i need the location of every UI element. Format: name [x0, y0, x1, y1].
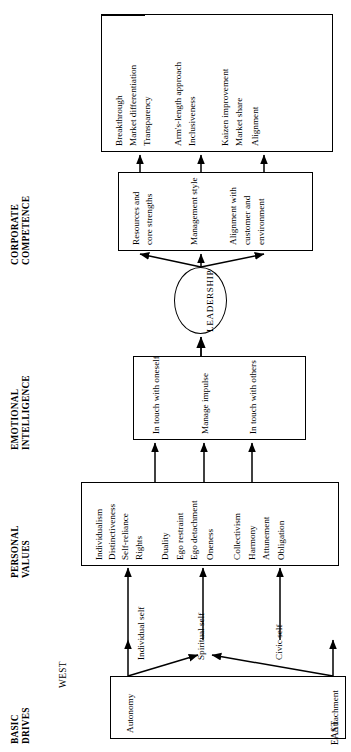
competence-item-alignment-line1: Alignment with: [228, 187, 238, 245]
self-label-civic-self: Civic self: [274, 625, 284, 660]
section-label-basic-drives-line2: DRIVES: [21, 707, 32, 744]
value-item-collectivism: Collectivism: [232, 513, 242, 560]
arrow-leadership-to-resources: [140, 254, 201, 267]
section-label-corporate-competence: CORPORATE COMPETENCE: [10, 196, 31, 265]
leadership-diagram: CORPORATE COMPETENCE EMOTIONAL INTELLIGE…: [0, 0, 351, 752]
connector-competence-to-outcomes: [140, 155, 264, 172]
outcome-item-transparency: Transparency: [142, 96, 152, 146]
value-item-distinctiveness: Distinctiveness: [107, 504, 117, 560]
value-item-self-reliance: Self-reliance: [120, 513, 130, 560]
competence-item-alignment-line2: customer and: [242, 196, 252, 245]
value-item-attunement: Attunement: [261, 517, 271, 560]
outcome-item-breakthrough: Breakthrough: [114, 95, 124, 146]
basic-drives-box: [110, 676, 346, 739]
section-label-personal-values-line2: VALUES: [21, 525, 32, 578]
value-item-rights: Rights: [134, 536, 144, 560]
section-label-emotional-intelligence-line1: EMOTIONAL: [10, 375, 21, 450]
ei-item-in-touch-with-others: In touch with others: [248, 360, 258, 434]
outcome-item-arms-length-approach: Arm's-length approach: [173, 62, 183, 146]
leadership-label: LEADERSHIP: [205, 270, 215, 332]
value-item-duality: Duality: [160, 532, 170, 560]
value-item-ego-detachment: Ego detachment: [189, 501, 199, 560]
self-label-individual-self: Individual self: [136, 607, 146, 660]
leadership-node: [174, 267, 227, 334]
drive-item-autonomy: Autonomy: [125, 694, 135, 733]
section-label-personal-values: PERSONAL VALUES: [10, 525, 31, 578]
competence-item-management-style: Management style: [189, 177, 199, 245]
outcome-item-market-differentiation: Market differentiation: [128, 65, 138, 146]
section-label-corporate-competence-line2: COMPETENCE: [21, 196, 32, 265]
section-label-basic-drives: BASIC DRIVES: [10, 707, 31, 744]
outcome-item-inclusiveness: Inclusiveness: [187, 97, 197, 147]
value-item-obligation: Obligation: [276, 521, 286, 560]
drive-item-attachment: Attachment: [330, 690, 340, 733]
outcome-item-alignment: Alignment: [250, 107, 260, 146]
section-label-basic-drives-line1: BASIC: [10, 707, 21, 744]
arrow-leadership-to-alignment: [201, 254, 264, 267]
competence-item-resources-line1: Resources and: [131, 192, 141, 245]
value-item-individualism: Individualism: [94, 509, 104, 560]
section-label-personal-values-line1: PERSONAL: [10, 525, 21, 578]
ei-item-in-touch-with-oneself: In touch with oneself: [151, 356, 161, 434]
value-item-oneness: Oneness: [205, 529, 215, 560]
arrow-attachment-to-spiritual-self: [212, 655, 333, 676]
competence-item-alignment-line3: environment: [256, 199, 266, 245]
outcome-item-market-share: Market share: [234, 98, 244, 146]
section-label-corporate-competence-line1: CORPORATE: [10, 196, 21, 265]
self-label-spiritual-self: Spiritual self: [196, 613, 206, 660]
ei-item-manage-impulse: Manage impulse: [200, 373, 210, 434]
value-item-harmony: Harmony: [247, 525, 257, 560]
section-label-emotional-intelligence: EMOTIONAL INTELLIGENCE: [10, 375, 31, 450]
orientation-label-west: WEST: [58, 661, 68, 688]
connector-leadership-to-competence: [140, 254, 264, 267]
value-item-ego-restraint: Ego restraint: [175, 513, 185, 560]
section-label-emotional-intelligence-line2: INTELLIGENCE: [21, 375, 32, 450]
connector-values-to-ei: [155, 443, 252, 482]
connector-drives-to-selves: [128, 640, 333, 676]
competence-item-resources-line2: core strengths: [144, 194, 154, 245]
outcome-item-kaizen-improvement: Kaizen improvement: [220, 69, 230, 146]
